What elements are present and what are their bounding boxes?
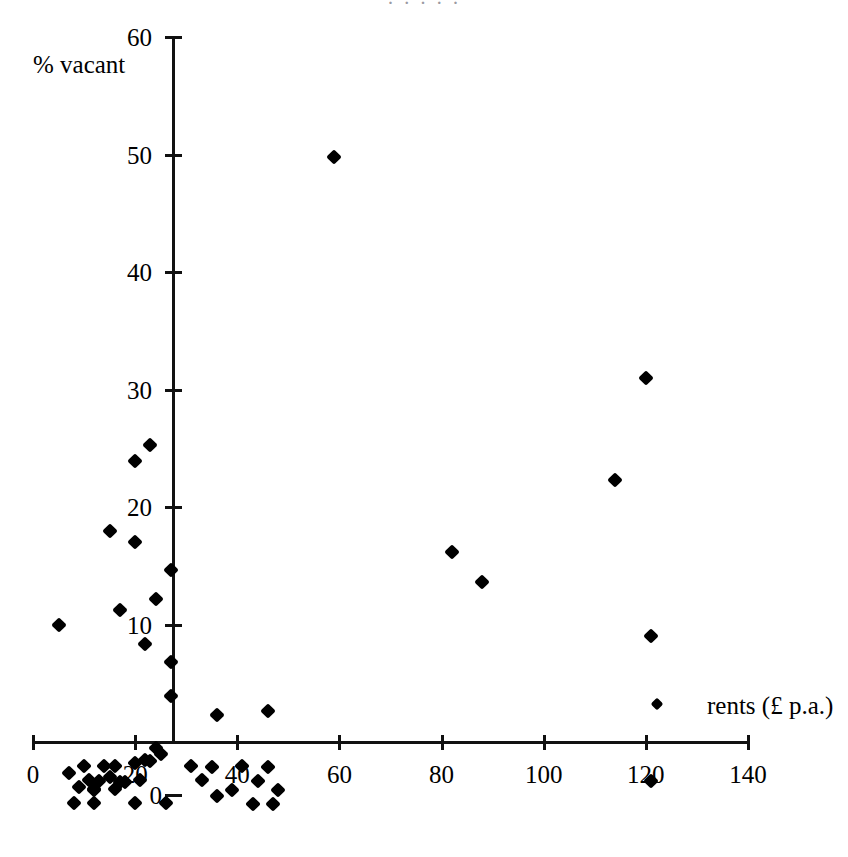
data-point-marker: [638, 370, 654, 386]
data-point-marker: [204, 759, 220, 775]
x-axis-tick: [134, 735, 137, 750]
data-point-marker: [102, 523, 118, 539]
data-point-marker: [148, 591, 164, 607]
x-axis-title: rents (£ p.a.): [707, 693, 833, 718]
x-axis-tick: [747, 735, 750, 750]
data-point-marker: [163, 563, 179, 579]
y-axis-tick-label: 30: [110, 377, 152, 402]
data-point-marker: [51, 617, 67, 633]
x-axis-tick: [338, 735, 341, 750]
data-point-marker: [327, 149, 343, 165]
legend-diamond-marker: [651, 698, 664, 711]
y-axis-tick-label: 40: [110, 260, 152, 285]
y-axis-title: % vacant: [33, 52, 125, 77]
data-point-marker: [194, 772, 210, 788]
x-axis-tick: [645, 735, 648, 750]
data-point-marker: [87, 795, 103, 811]
data-point-marker: [163, 688, 179, 704]
data-point-marker: [250, 773, 266, 789]
data-point-marker: [475, 574, 491, 590]
x-axis-tick: [441, 735, 444, 750]
data-point-marker: [265, 796, 281, 812]
x-axis-tick: [543, 735, 546, 750]
cropped-caption-remnant: · · · · ·: [0, 0, 848, 7]
x-axis-line: [32, 741, 749, 744]
data-point-marker: [260, 704, 276, 720]
data-point-marker: [163, 654, 179, 670]
y-axis-tick: [165, 271, 182, 274]
x-axis-tick: [32, 735, 35, 750]
x-axis-tick-label: 140: [729, 762, 767, 787]
data-point-marker: [245, 796, 261, 812]
y-axis-tick-label: 50: [110, 142, 152, 167]
data-point-marker: [444, 544, 460, 560]
y-axis-tick: [165, 154, 182, 157]
data-point-marker: [260, 759, 276, 775]
data-point-marker: [209, 707, 225, 723]
x-axis-tick-label: 60: [327, 762, 352, 787]
data-point-marker: [143, 437, 159, 453]
y-axis-tick-label: 20: [110, 495, 152, 520]
y-axis-tick-label: 10: [110, 612, 152, 637]
x-axis-tick-label: 80: [429, 762, 454, 787]
data-point-marker: [607, 472, 623, 488]
data-point-marker: [127, 453, 143, 469]
y-axis-tick: [165, 506, 182, 509]
x-axis-tick: [236, 735, 239, 750]
data-point-marker: [61, 765, 77, 781]
y-axis-tick: [165, 389, 182, 392]
data-point-marker: [66, 795, 82, 811]
y-axis-tick-label: 60: [110, 25, 152, 50]
x-axis-tick-label: 0: [27, 762, 40, 787]
x-axis-tick-label: 100: [525, 762, 563, 787]
y-axis-tick: [165, 624, 182, 627]
data-point-marker: [643, 628, 659, 644]
y-axis-tick: [165, 36, 182, 39]
data-point-marker: [209, 788, 225, 804]
data-point-marker: [76, 758, 92, 774]
data-point-marker: [138, 637, 154, 653]
scatter-plot-figure: · · · · · 020406080100120140 10203040506…: [0, 0, 848, 857]
data-point-marker: [127, 534, 143, 550]
data-point-marker: [184, 758, 200, 774]
